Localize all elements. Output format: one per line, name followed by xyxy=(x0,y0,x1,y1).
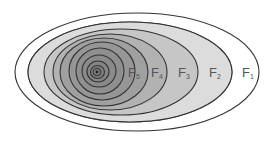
nested-ellipses-diagram: F 5 F 4 F 3 F 2 F 1 xyxy=(0,0,280,147)
svg-text:3: 3 xyxy=(186,73,190,80)
svg-text:1: 1 xyxy=(250,73,254,80)
svg-text:F: F xyxy=(209,65,217,80)
limit-point xyxy=(96,71,99,74)
svg-text:F: F xyxy=(128,65,136,80)
svg-text:F: F xyxy=(178,65,186,80)
svg-text:5: 5 xyxy=(136,73,140,80)
svg-text:4: 4 xyxy=(159,73,163,80)
svg-text:F: F xyxy=(151,65,159,80)
svg-text:F: F xyxy=(242,65,250,80)
svg-text:2: 2 xyxy=(217,73,221,80)
